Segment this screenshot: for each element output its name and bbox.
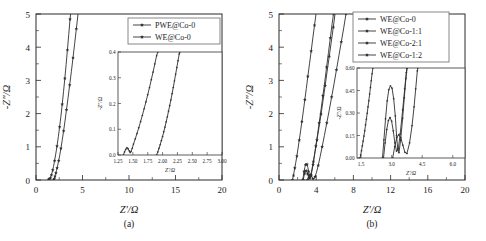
x-tick-label: 12 (386, 185, 395, 195)
inset-x-tick-label: 6.0 (450, 161, 457, 167)
series-line (292, 14, 316, 180)
series-group (47, 14, 79, 182)
inset-y-tick-label: 0.30 (345, 110, 354, 116)
inset-x-tick-label: 1.5 (358, 161, 365, 167)
inset-y-tick-label: 0.3 (109, 75, 116, 81)
y-tick-label: 5 (269, 10, 274, 20)
y-tick-label: 4 (269, 43, 274, 53)
inset-y-tick-label: 0.0 (109, 152, 116, 158)
inset-x-tick-label: 3.00 (217, 158, 226, 164)
series-marker (291, 178, 295, 181)
y-tick-label: 1 (26, 142, 31, 152)
inset-y-tick-label: 0.45 (345, 88, 354, 94)
x-tick-label: 15 (171, 185, 181, 195)
x-tick-label: 0 (34, 185, 39, 195)
y-tick-label: 1 (269, 142, 274, 152)
inset-y-tick-label: 0.2 (109, 101, 116, 107)
x-tick-label: 4 (314, 185, 319, 195)
inset-y-tick-label: 0.1 (109, 126, 116, 132)
inset-y-tick-label: 0.4 (109, 49, 116, 55)
inset-frame (357, 68, 465, 158)
figure-eis-nyquist-plots: 05101520012345Z'/Ω-Z"/Ω(a)PWE@Co-0WE@Co-… (0, 0, 486, 241)
series-group (291, 12, 348, 181)
panel-a-svg: 05101520012345Z'/Ω-Z"/Ω(a)PWE@Co-0WE@Co-… (0, 0, 243, 241)
panel-caption: (b) (366, 219, 377, 230)
y-tick-label: 2 (269, 109, 274, 119)
inset-y-tick-label: 0.00 (345, 155, 354, 161)
chart-panel-b: 048121620012345Z'/Ω-Z"/Ω(b)WE@Co-0WE@Co-… (243, 0, 486, 241)
y-tick-label: 0 (269, 176, 274, 186)
inset-x-axis-title: Z'/Ω (165, 167, 175, 173)
legend-label: PWE@Co-0 (155, 21, 195, 30)
series-marker (301, 178, 305, 181)
x-axis-title: Z'/Ω (120, 204, 139, 215)
inset-y-axis-title: -Z"/Ω (336, 107, 342, 120)
x-tick-label: 10 (125, 185, 135, 195)
inset-x-tick-label: 1.50 (128, 158, 137, 164)
panel-caption: (a) (124, 219, 135, 230)
inset-x-tick-label: 4.5 (419, 161, 426, 167)
series-line (54, 14, 78, 180)
series-line (303, 14, 334, 180)
inset-y-tick-label: 0.60 (345, 65, 354, 71)
y-tick-label: 5 (26, 10, 31, 20)
x-tick-label: 0 (277, 185, 282, 195)
x-tick-label: 20 (461, 185, 471, 195)
x-tick-label: 8 (351, 185, 356, 195)
legend-label: WE@Co-1:1 (380, 27, 422, 36)
y-tick-label: 4 (26, 43, 31, 53)
chart-panel-a: 05101520012345Z'/Ω-Z"/Ω(a)PWE@Co-0WE@Co-… (0, 0, 243, 241)
inset-x-tick-label: 1.25 (113, 158, 122, 164)
panel-b-svg: 048121620012345Z'/Ω-Z"/Ω(b)WE@Co-0WE@Co-… (243, 0, 486, 241)
inset-x-axis-title: Z'/Ω (406, 170, 416, 176)
legend-label: WE@Co-0 (380, 15, 416, 24)
inset-x-tick-label: 2.25 (173, 158, 182, 164)
y-tick-label: 2 (26, 109, 31, 119)
inset-x-tick-label: 1.75 (143, 158, 152, 164)
inset-x-tick-label: 2.50 (188, 158, 197, 164)
x-tick-label: 16 (423, 185, 433, 195)
inset-x-tick-label: 2.00 (158, 158, 167, 164)
y-axis-title: -Z"/Ω (1, 84, 12, 109)
inset-y-axis-title: -Z"/Ω (97, 97, 103, 110)
inset-y-tick-label: 0.15 (345, 133, 354, 139)
y-tick-label: 3 (269, 76, 274, 86)
inset-x-tick-label: 2.75 (203, 158, 212, 164)
y-tick-label: 0 (26, 176, 31, 186)
x-tick-label: 20 (218, 185, 228, 195)
legend-label: WE@Co-1:2 (380, 51, 422, 60)
inset-x-tick-label: 3.0 (388, 161, 395, 167)
x-axis-title: Z'/Ω (363, 204, 382, 215)
y-tick-label: 3 (26, 76, 31, 86)
legend-label: WE@Co-2:1 (380, 39, 422, 48)
legend-label: WE@Co-0 (155, 33, 191, 42)
y-axis-title: -Z"/Ω (244, 84, 255, 109)
x-tick-label: 5 (80, 185, 85, 195)
